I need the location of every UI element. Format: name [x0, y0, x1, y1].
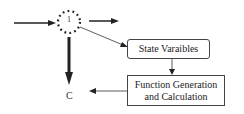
- input-arrow: [14, 20, 56, 26]
- function-generation-label: Function Generation and Calculation: [128, 79, 224, 103]
- state-variables-box: State Varaibles: [127, 39, 210, 59]
- state-variables-label: State Varaibles: [139, 43, 199, 55]
- output-c-label: C: [66, 90, 73, 101]
- function-generation-box: Function Generation and Calculation: [127, 75, 225, 106]
- function-to-c-arrow: [89, 88, 127, 94]
- thick-down-arrow: [65, 37, 73, 85]
- node-to-state-arrow: [80, 27, 128, 47]
- output-arrow-right: [89, 18, 119, 24]
- state-to-function-arrow: [169, 59, 175, 75]
- node-label: 1: [67, 15, 71, 24]
